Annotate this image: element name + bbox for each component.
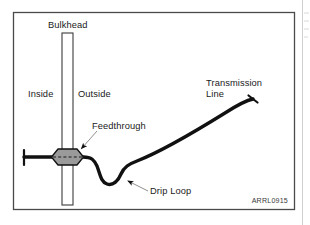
figure-credit: ARRL0915 xyxy=(252,197,288,205)
label-bulkhead: Bulkhead xyxy=(48,20,88,30)
label-transmission-line-2: Line xyxy=(206,89,224,99)
label-drip-loop: Drip Loop xyxy=(150,186,191,196)
label-outside: Outside xyxy=(78,89,111,99)
feedthrough-body xyxy=(52,149,84,165)
feedthrough-connector xyxy=(52,149,84,165)
bulkhead-feedthrough-diagram: Bulkhead Inside Outside Feedthrough Drip… xyxy=(0,0,310,225)
label-transmission-line-1: Transmission xyxy=(206,78,262,88)
label-feedthrough: Feedthrough xyxy=(92,121,146,131)
bulkhead-wall xyxy=(62,33,73,205)
bulkhead-outline xyxy=(62,33,73,205)
label-inside: Inside xyxy=(28,89,53,99)
figure-root: Bulkhead Inside Outside Feedthrough Drip… xyxy=(0,0,310,225)
